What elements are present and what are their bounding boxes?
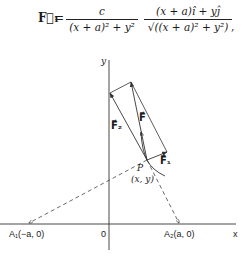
vector-f2-label: F⃗₂: [111, 120, 122, 131]
vector-f1-label: F⃗₁: [160, 155, 171, 166]
point-p-coords: (x, y): [131, 174, 154, 184]
x-axis-label: x: [233, 229, 238, 239]
dashed-line-to-a2: [147, 160, 179, 223]
point-a1-label: A₁(−a, 0): [9, 229, 44, 239]
point-a2-label: A₂(a, 0): [164, 229, 195, 239]
origin-label: 0: [101, 229, 106, 239]
point-p-label: P: [137, 163, 143, 173]
parallelogram-top: [110, 82, 131, 93]
vector-diagram: [0, 0, 246, 263]
dashed-line-to-a1: [29, 160, 147, 223]
vector-f-label: F⃗: [139, 112, 146, 123]
y-axis-label: y: [101, 56, 106, 66]
